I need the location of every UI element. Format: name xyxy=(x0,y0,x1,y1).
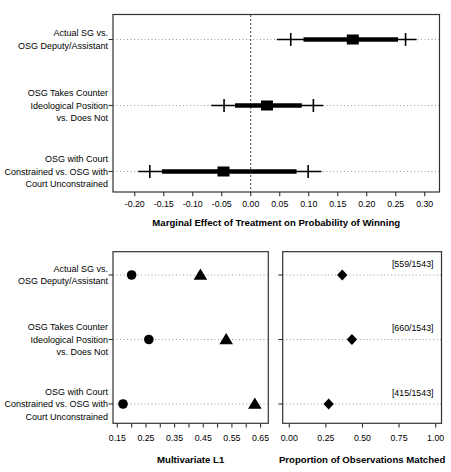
triangle-marker-row1 xyxy=(194,269,208,280)
top-panel-x-tick-label: 0.15 xyxy=(329,199,346,209)
bottom-left-panel-x-tick-label: 0.65 xyxy=(252,433,269,443)
bottom-left-panel-x-tick-label: 0.55 xyxy=(223,433,240,443)
bottom-right-panel-x-tick-label: 0.75 xyxy=(390,433,407,443)
top-panel-x-tick-label: -0.20 xyxy=(125,199,145,209)
top-panel-x-tick-label: 0.05 xyxy=(271,199,288,209)
diamond-marker-row3 xyxy=(323,399,333,410)
bottom-left-panel-category-label-row2: OSG Takes Counter xyxy=(28,322,108,332)
bottom-right-panel-x-tick-label: 0.25 xyxy=(317,433,334,443)
top-panel-category-label-row3: OSG with Court xyxy=(45,154,109,164)
bottom-left-panel-frame xyxy=(113,252,268,424)
top-panel-x-axis-title: Marginal Effect of Treatment on Probabil… xyxy=(152,217,400,228)
top-panel-x-tick-label: -0.10 xyxy=(183,199,203,209)
bottom-left-panel-x-axis-title: Multivariate L1 xyxy=(157,454,225,465)
bottom-left-panel-category-label-row2: vs. Does Not xyxy=(56,347,108,357)
matched-count-annotation-row2: [660/1543] xyxy=(392,323,434,333)
top-panel-category-label-row1: OSG Deputy/Assistant xyxy=(18,41,109,51)
bottom-left-panel-category-label-row1: Actual SG vs. xyxy=(53,264,108,274)
top-panel-category-label-row3: Court Unconstrained xyxy=(25,179,108,189)
diamond-marker-row2 xyxy=(347,334,357,345)
top-panel-x-tick-label: -0.05 xyxy=(212,199,232,209)
top-panel-category-label-row2: vs. Does Not xyxy=(56,113,108,123)
circle-marker-row2 xyxy=(144,335,154,345)
top-panel-category-label-row3: Constrained vs. OSG with xyxy=(4,167,108,177)
matched-count-annotation-row1: [559/1543] xyxy=(392,259,434,269)
bottom-left-panel-x-tick-label: 0.35 xyxy=(166,433,183,443)
triangle-marker-row2 xyxy=(219,333,233,344)
bottom-left-panel-category-label-row3: OSG with Court xyxy=(45,387,109,397)
top-panel-category-label-row1: Actual SG vs. xyxy=(53,28,108,38)
bottom-right-panel-x-tick-label: 1.00 xyxy=(427,433,444,443)
bottom-left-panel-x-tick-label: 0.15 xyxy=(109,433,126,443)
circle-marker-row1 xyxy=(127,270,137,280)
top-panel-x-tick-label: 0.20 xyxy=(358,199,375,209)
bottom-right-panel-x-tick-label: 0.00 xyxy=(281,433,298,443)
top-panel-category-label-row2: OSG Takes Counter xyxy=(28,88,108,98)
bottom-right-panel-x-axis-title: Proportion of Observations Matched xyxy=(279,454,445,465)
top-panel-row3-point-estimate-square xyxy=(217,167,229,177)
triangle-marker-row3 xyxy=(248,398,262,409)
top-panel-x-tick-label: 0.30 xyxy=(416,199,433,209)
bottom-right-panel-frame xyxy=(283,252,442,424)
top-panel-row1-point-estimate-square xyxy=(347,35,359,45)
bottom-left-panel-x-tick-label: 0.25 xyxy=(137,433,154,443)
top-panel-x-tick-label: 0.25 xyxy=(387,199,404,209)
bottom-left-panel-category-label-row1: OSG Deputy/Assistant xyxy=(18,276,109,286)
circle-marker-row3 xyxy=(118,399,128,409)
top-panel-x-tick-label: 0.10 xyxy=(300,199,317,209)
top-panel-x-tick-label: -0.15 xyxy=(154,199,174,209)
diamond-marker-row1 xyxy=(337,270,347,281)
top-panel-row2-point-estimate-square xyxy=(261,101,273,111)
bottom-left-panel-category-label-row3: Court Unconstrained xyxy=(25,412,108,422)
bottom-left-panel-x-tick-label: 0.45 xyxy=(195,433,212,443)
figure-canvas: -0.20-0.15-0.10-0.050.000.050.100.150.20… xyxy=(0,0,451,472)
bottom-left-panel-category-label-row3: Constrained vs. OSG with xyxy=(4,399,108,409)
top-panel-category-label-row2: Ideological Position xyxy=(30,101,108,111)
top-panel-x-tick-label: 0.00 xyxy=(242,199,259,209)
bottom-left-panel-category-label-row2: Ideological Position xyxy=(30,335,108,345)
statistical-figure: -0.20-0.15-0.10-0.050.000.050.100.150.20… xyxy=(0,0,451,472)
bottom-right-panel-x-tick-label: 0.50 xyxy=(354,433,371,443)
matched-count-annotation-row3: [415/1543] xyxy=(392,388,434,398)
